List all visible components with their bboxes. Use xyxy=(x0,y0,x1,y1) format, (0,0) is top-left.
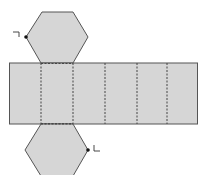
bottom-hexagon-face xyxy=(25,124,88,175)
top-hexagon-face xyxy=(26,12,88,63)
prism-net-diagram xyxy=(0,0,202,175)
lateral-faces-strip xyxy=(10,63,198,124)
right-angle-mark-bottom xyxy=(86,145,100,152)
right-angle-mark-top xyxy=(13,32,28,39)
